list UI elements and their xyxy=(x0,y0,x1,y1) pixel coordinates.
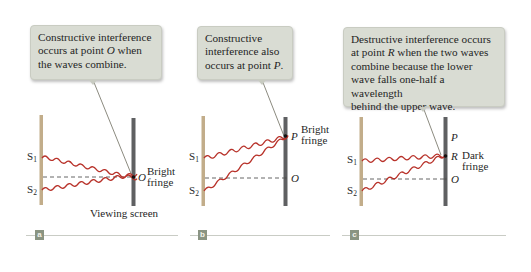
label-bright-fringe-a: Bright fringe xyxy=(147,166,175,188)
s1-c-sub: 1 xyxy=(353,158,357,167)
point-r-c xyxy=(444,154,448,158)
fringe-b-line2: fringe xyxy=(301,135,329,146)
rule-a xyxy=(26,235,178,236)
label-point-o-a: O xyxy=(138,171,146,183)
panel-a-diagram xyxy=(40,115,138,206)
wave-s1-a xyxy=(42,156,137,180)
label-s2-a: S2 xyxy=(27,183,37,199)
label-s1-b: S1 xyxy=(189,150,199,166)
panel-b-diagram xyxy=(202,116,289,206)
barrier-c xyxy=(360,117,364,206)
s1-a-sub: 1 xyxy=(33,155,37,164)
label-point-p-b: P xyxy=(291,130,298,142)
barrier-b xyxy=(202,116,206,206)
point-p-b xyxy=(284,134,288,138)
label-dark-fringe-c: Dark fringe xyxy=(462,150,488,172)
label-point-o-b: O xyxy=(291,172,299,184)
s1-b-sub: 1 xyxy=(195,155,199,164)
panel-tag-a: a xyxy=(35,230,44,240)
point-o-b xyxy=(284,177,286,179)
label-point-p-c: P xyxy=(451,131,458,143)
barrier-a xyxy=(40,115,44,205)
rule-c xyxy=(342,235,506,236)
label-point-o-c: O xyxy=(451,173,459,185)
label-s1-c: S1 xyxy=(347,153,357,169)
label-s1-a: S1 xyxy=(27,150,37,166)
screen-a xyxy=(132,118,136,206)
label-s2-c: S2 xyxy=(347,184,357,200)
s2-b-sub: 2 xyxy=(195,189,199,198)
s2-a-sub: 2 xyxy=(33,188,37,197)
panel-tag-b: b xyxy=(198,230,207,240)
panel-c-diagram xyxy=(360,117,448,206)
fringe-c-line2: fringe xyxy=(462,161,488,172)
panel-tag-c: c xyxy=(350,230,359,240)
label-point-r-c: R xyxy=(451,150,458,162)
wave-s2-a xyxy=(42,174,137,191)
point-o-a xyxy=(132,175,136,179)
callout-pointers xyxy=(93,80,441,176)
fringe-a-line2: fringe xyxy=(147,177,175,188)
label-viewing-screen: Viewing screen xyxy=(90,207,158,219)
label-s2-b: S2 xyxy=(189,184,199,200)
wave-s2-b xyxy=(204,135,288,191)
wave-s1-b xyxy=(204,136,288,158)
label-bright-fringe-b: Bright fringe xyxy=(301,124,329,146)
s2-c-sub: 2 xyxy=(353,189,357,198)
screen-b xyxy=(284,117,288,206)
screen-c xyxy=(444,117,448,206)
point-o-c xyxy=(444,178,446,180)
rule-b xyxy=(190,235,330,236)
